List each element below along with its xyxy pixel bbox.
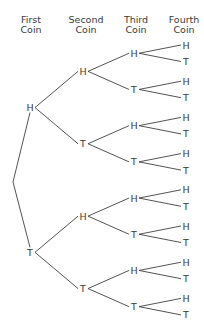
edge-t-to-h bbox=[35, 216, 78, 252]
edge-h-t-to-t bbox=[88, 144, 129, 162]
edge-t-h-h-to-h bbox=[139, 190, 181, 198]
edge-t-t-t-to-t bbox=[139, 307, 181, 315]
node-level3-t-t-t: T bbox=[130, 301, 137, 312]
tree-svg: First Coin Second Coin Third Coin Fourth… bbox=[0, 0, 204, 336]
edge-t-h-to-h bbox=[88, 198, 129, 216]
node-level1-t: T bbox=[26, 247, 33, 258]
node-level1-h: H bbox=[26, 102, 33, 113]
node-level4-t-t-t-t: T bbox=[182, 309, 189, 320]
edge-t-t-t-to-h bbox=[139, 298, 181, 306]
coin-toss-tree-diagram: First Coin Second Coin Third Coin Fourth… bbox=[0, 0, 204, 336]
edge-t-t-h-to-h bbox=[139, 262, 181, 270]
node-level4-t-h-h-t: T bbox=[182, 201, 189, 212]
node-level3-h-t-h: H bbox=[130, 120, 137, 131]
edge-t-h-h-to-t bbox=[139, 198, 181, 206]
edge-h-h-t-to-t bbox=[139, 89, 181, 97]
node-level2-h-t: T bbox=[79, 138, 86, 149]
node-level4-h-t-h-t: T bbox=[182, 128, 189, 139]
edge-t-to-t bbox=[35, 252, 78, 288]
node-level3-h-h-h: H bbox=[130, 48, 137, 59]
node-level4-h-h-h-h: H bbox=[182, 40, 189, 51]
edge-h-t-t-to-t bbox=[139, 162, 181, 170]
header-second-coin-line2: Coin bbox=[75, 24, 96, 35]
edge-t-t-to-h bbox=[88, 270, 129, 288]
node-level4-h-h-t-h: H bbox=[182, 76, 189, 87]
edge-root-to-t bbox=[13, 182, 30, 247]
node-level4-t-t-t-h: H bbox=[182, 293, 189, 304]
edge-h-h-to-t bbox=[88, 71, 129, 89]
edge-h-t-h-to-t bbox=[139, 126, 181, 134]
node-level3-t-h-t: T bbox=[130, 229, 137, 240]
node-level2-t-h: H bbox=[79, 211, 86, 222]
edge-t-h-to-t bbox=[88, 216, 129, 234]
edge-h-h-t-to-h bbox=[139, 81, 181, 89]
node-level4-h-t-t-h: H bbox=[182, 148, 189, 159]
node-level2-t-t: T bbox=[79, 283, 86, 294]
edge-h-to-h bbox=[35, 71, 78, 107]
edge-t-h-t-to-h bbox=[139, 226, 181, 234]
edge-h-t-to-h bbox=[88, 126, 129, 144]
node-level4-h-t-h-h: H bbox=[182, 112, 189, 123]
header-fourth-coin-line2: Coin bbox=[173, 24, 194, 35]
tree-nodes: HTHHTTHHTHHTTTHHTHHTTHHTHHTTTT bbox=[26, 40, 189, 321]
edge-h-h-h-to-t bbox=[139, 53, 181, 61]
node-level3-t-h-h: H bbox=[130, 193, 137, 204]
node-level3-t-t-h: H bbox=[130, 265, 137, 276]
edge-t-t-h-to-t bbox=[139, 270, 181, 278]
edge-h-h-to-h bbox=[88, 53, 129, 71]
header-first-coin-line2: Coin bbox=[20, 24, 41, 35]
node-level2-h-h: H bbox=[79, 66, 86, 77]
edge-root-to-h bbox=[13, 113, 30, 182]
column-headers: First Coin Second Coin Third Coin Fourth… bbox=[20, 14, 199, 35]
tree-edges bbox=[13, 45, 181, 315]
node-level4-t-h-t-t: T bbox=[182, 237, 189, 248]
header-third-coin-line2: Coin bbox=[125, 24, 146, 35]
node-level3-h-t-t: T bbox=[130, 156, 137, 167]
edge-h-to-t bbox=[35, 108, 78, 144]
node-level4-h-h-t-t: T bbox=[182, 92, 189, 103]
node-level4-t-t-h-h: H bbox=[182, 257, 189, 268]
node-level4-t-t-h-t: T bbox=[182, 273, 189, 284]
node-level4-t-h-h-h: H bbox=[182, 184, 189, 195]
edge-h-h-h-to-h bbox=[139, 45, 181, 53]
node-level4-h-h-h-t: T bbox=[182, 56, 189, 67]
edge-h-t-t-to-h bbox=[139, 154, 181, 162]
edge-h-t-h-to-h bbox=[139, 117, 181, 125]
edge-t-t-to-t bbox=[88, 289, 129, 307]
node-level3-h-h-t: T bbox=[130, 84, 137, 95]
node-level4-t-h-t-h: H bbox=[182, 221, 189, 232]
node-level4-h-t-t-t: T bbox=[182, 165, 189, 176]
edge-t-h-t-to-t bbox=[139, 234, 181, 242]
